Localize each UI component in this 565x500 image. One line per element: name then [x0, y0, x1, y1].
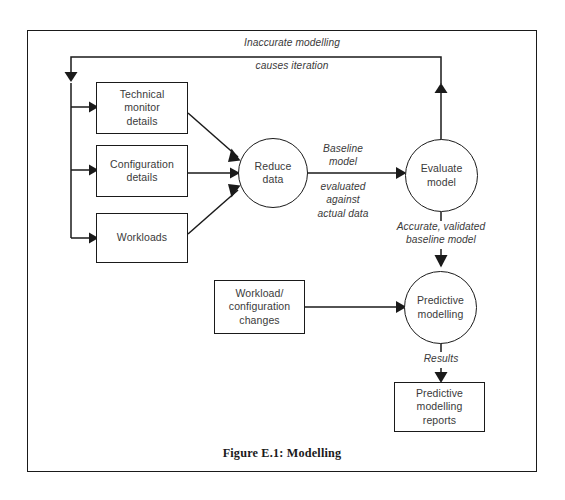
figure-page: Technical monitor details Configuration … — [0, 0, 565, 500]
flow-label-baseline-above: Baseline model — [293, 142, 393, 169]
node-predictive-modelling[interactable]: Predictive modelling — [404, 271, 477, 344]
flow-label-line: model — [293, 155, 393, 168]
edge-technical-to-reduce — [188, 113, 238, 157]
node-evaluate-model[interactable]: Evaluate model — [405, 139, 478, 212]
node-label-line: Predictive — [417, 294, 464, 307]
flow-label-line: Inaccurate modelling — [182, 36, 402, 49]
flow-label-line: causes iteration — [182, 59, 402, 72]
flow-label-feedback-bottom: causes iteration — [182, 59, 402, 72]
node-label-line: details — [110, 171, 174, 184]
node-label-line: Workload/ — [229, 287, 290, 300]
node-label-line: Reduce — [255, 160, 292, 173]
node-label-line: reports — [416, 414, 463, 427]
flow-label-line: against — [293, 193, 393, 206]
flow-label-line: Accurate, validated — [376, 220, 506, 233]
flow-label-line: Baseline — [293, 142, 393, 155]
node-technical-monitor-details[interactable]: Technical monitor details — [96, 82, 188, 134]
node-label-line: Workloads — [117, 231, 167, 244]
arrowhead-reduce-in-bot — [228, 184, 241, 198]
flow-label-results: Results — [396, 352, 486, 365]
node-workloads[interactable]: Workloads — [96, 213, 188, 263]
node-workload-configuration-changes[interactable]: Workload/ configuration changes — [214, 280, 305, 334]
node-label-line: modelling — [416, 400, 463, 413]
node-label-line: monitor — [120, 101, 165, 114]
node-label-line: Technical — [120, 88, 165, 101]
arrowhead-feedback-up — [435, 83, 448, 93]
arrowhead-predictive-in-top — [435, 255, 448, 268]
flow-label-baseline-below: evaluated against actual data — [293, 180, 393, 220]
edge-workloads-to-reduce — [188, 190, 238, 234]
node-label-line: model — [421, 176, 463, 189]
node-label-line: changes — [229, 314, 290, 327]
flow-label-line: baseline model — [376, 233, 506, 246]
flow-label-validated-baseline: Accurate, validated baseline model — [376, 220, 506, 247]
arrowhead-spine-down — [65, 72, 78, 82]
flow-label-line: evaluated — [293, 180, 393, 193]
node-configuration-details[interactable]: Configuration details — [96, 145, 188, 197]
node-predictive-modelling-reports[interactable]: Predictive modelling reports — [394, 382, 485, 432]
node-label-line: Configuration — [110, 158, 174, 171]
flow-label-line: actual data — [293, 207, 393, 220]
node-label-line: Evaluate — [421, 162, 463, 175]
figure-caption: Figure E.1: Modelling — [27, 446, 537, 461]
node-label-line: configuration — [229, 300, 290, 313]
node-label-line: data — [255, 173, 292, 186]
node-label-line: Predictive — [416, 387, 463, 400]
flow-label-line: Results — [396, 352, 486, 365]
node-label-line: details — [120, 115, 165, 128]
node-label-line: modelling — [417, 308, 464, 321]
flow-label-feedback-top: Inaccurate modelling — [182, 36, 402, 49]
